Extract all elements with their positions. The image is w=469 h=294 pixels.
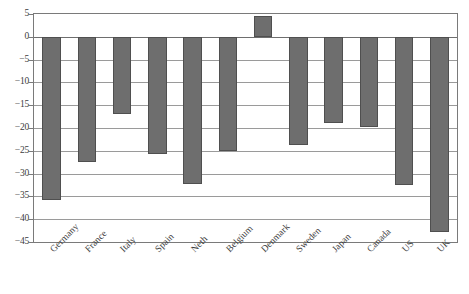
bar-france [78,37,96,162]
bar-uk [430,37,448,232]
bar-italy [113,37,131,115]
x-axis: GermanyFranceItalySpainNethBelgiumDenmar… [0,243,469,294]
bar-us [395,37,413,185]
bar-germany [42,37,60,200]
y-axis-tick-label: −30 [15,169,29,179]
y-axis-tick-label: −25 [15,146,29,156]
bar-neth [183,37,201,184]
bar-spain [148,37,166,155]
y-axis-tick-label: −35 [15,191,29,201]
bar-sweden [289,37,307,145]
plot-area [33,13,458,243]
y-axis-tick-label: −40 [15,214,29,224]
bar-denmark [254,16,272,37]
bar-belgium [219,37,237,151]
y-axis-tick-label: −20 [15,123,29,133]
y-axis-tick-label: −15 [15,100,29,110]
bar-chart: 50−5−10−15−20−25−30−35−40−45 GermanyFran… [0,0,469,294]
bar-japan [324,37,342,124]
chart-title-clipped [0,0,469,5]
bar-canada [360,37,378,127]
y-axis-tick-label: −10 [15,77,29,87]
bar-series [34,14,457,242]
